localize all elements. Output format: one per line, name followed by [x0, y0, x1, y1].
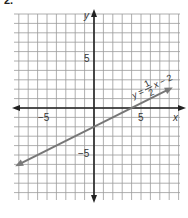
y-axis-up-arrow-icon: [91, 9, 97, 17]
equation-label: y = 1 2 x − 2: [127, 68, 176, 106]
x-axis-left-arrow-icon: [12, 105, 20, 111]
y-tick-neg5: −5: [78, 148, 90, 159]
y-axis-down-arrow-icon: [91, 195, 97, 203]
x-tick-5: 5: [138, 112, 144, 123]
eq-equals: =: [137, 86, 146, 97]
y-tick-5: 5: [84, 53, 90, 64]
x-axis-label: x: [172, 112, 179, 123]
x-axis-right-arrow-icon: [178, 105, 186, 111]
coordinate-graph: y x 5 −5 −5 5 y = 1 2 x − 2: [0, 0, 188, 218]
y-axis-label: y: [83, 10, 90, 21]
grid-lines: [14, 14, 180, 200]
eq-constant: − 2: [158, 72, 174, 87]
x-tick-neg5: −5: [38, 112, 50, 123]
